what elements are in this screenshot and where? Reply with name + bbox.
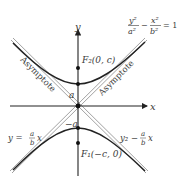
- eq-left-num: a: [30, 130, 34, 138]
- eq-right-prefix: y₂ −: [119, 133, 138, 143]
- eq-num-left: y²: [128, 16, 137, 25]
- eq-num-right: x²: [151, 16, 159, 25]
- vertex-lower-label: −a: [65, 119, 78, 129]
- origin-point: [76, 104, 81, 109]
- y-axis-label: y: [74, 21, 81, 32]
- focus-upper-label: F₂(0, c): [81, 55, 116, 65]
- focus-upper-point: [76, 66, 80, 70]
- hyperbola-equation: y² a² − x² b² = 1: [128, 16, 177, 36]
- vertex-upper-point: [76, 82, 80, 86]
- eq-left-den: b: [30, 139, 35, 147]
- asymptote-right-equation: y₂ − a b x: [119, 130, 153, 147]
- eq-equals: = 1: [163, 21, 177, 30]
- eq-den-left: a²: [128, 27, 136, 36]
- x-axis-label: x: [150, 101, 156, 112]
- asymptote-left-label: Asymptote: [18, 54, 58, 94]
- focus-lower-point: [76, 141, 80, 145]
- vertex-upper-label: a: [69, 90, 74, 100]
- eq-minus: −: [141, 21, 148, 30]
- eq-left-var: x: [37, 133, 42, 143]
- eq-left-prefix: y =: [7, 133, 23, 143]
- eq-right-num: a: [141, 130, 145, 138]
- eq-right-den: b: [141, 139, 146, 147]
- eq-den-right: b²: [150, 27, 158, 36]
- eq-right-var: x: [148, 133, 153, 143]
- focus-lower-label: F₁(−c, 0): [80, 149, 122, 159]
- hyperbola-diagram: x y a −a F₂(0, c) F₁(−c, 0) Asymptote As…: [0, 0, 180, 181]
